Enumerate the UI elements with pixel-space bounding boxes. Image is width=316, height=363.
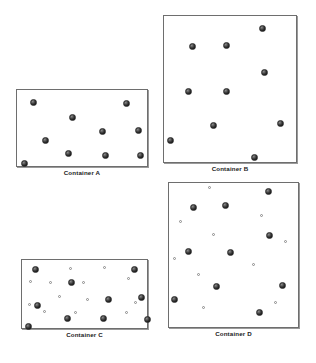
- large-particle: [213, 283, 220, 290]
- large-particle: [189, 43, 196, 50]
- large-particle: [135, 127, 142, 134]
- small-particle: [43, 310, 46, 313]
- container-box-d: [168, 182, 299, 328]
- small-particle: [29, 280, 32, 283]
- small-particle: [82, 281, 85, 284]
- container-box-b: [163, 15, 297, 163]
- large-particle: [30, 99, 37, 106]
- small-particle: [260, 214, 263, 217]
- large-particle: [64, 315, 71, 322]
- large-particle: [123, 100, 130, 107]
- container-box-c: [21, 259, 148, 329]
- large-particle: [223, 88, 230, 95]
- small-particle: [197, 273, 200, 276]
- large-particle: [65, 150, 72, 157]
- small-particle: [212, 233, 215, 236]
- large-particle: [266, 232, 273, 239]
- small-particle: [284, 240, 287, 243]
- container-label-c: Container C: [21, 331, 148, 339]
- large-particle: [277, 120, 284, 127]
- small-particle: [208, 186, 211, 189]
- small-particle: [274, 301, 277, 304]
- small-particle: [69, 267, 72, 270]
- large-particle: [21, 160, 28, 167]
- small-particle: [58, 295, 61, 298]
- large-particle: [105, 296, 112, 303]
- small-particle: [49, 281, 52, 284]
- large-particle: [138, 294, 145, 301]
- large-particle: [68, 279, 75, 286]
- large-particle: [227, 249, 234, 256]
- large-particle: [222, 202, 229, 209]
- container-label-b: Container B: [163, 165, 297, 173]
- large-particle: [261, 69, 268, 76]
- container-label-a: Container A: [16, 169, 148, 177]
- small-particle: [202, 306, 205, 309]
- small-particle: [127, 277, 130, 280]
- large-particle: [259, 25, 266, 32]
- small-particle: [103, 266, 106, 269]
- large-particle: [223, 42, 230, 49]
- small-particle: [252, 263, 255, 266]
- small-particle: [173, 257, 176, 260]
- large-particle: [279, 282, 286, 289]
- large-particle: [25, 323, 32, 330]
- large-particle: [251, 154, 258, 161]
- small-particle: [74, 311, 77, 314]
- small-particle: [134, 301, 137, 304]
- large-particle: [137, 152, 144, 159]
- small-particle: [28, 303, 31, 306]
- figure-canvas: Container A Container B Container C Cont…: [0, 0, 316, 363]
- large-particle: [100, 315, 107, 322]
- large-particle: [171, 296, 178, 303]
- large-particle: [69, 114, 76, 121]
- small-particle: [125, 311, 128, 314]
- small-particle: [86, 298, 89, 301]
- large-particle: [185, 248, 192, 255]
- large-particle: [210, 122, 217, 129]
- large-particle: [102, 152, 109, 159]
- large-particle: [190, 204, 197, 211]
- large-particle: [131, 266, 138, 273]
- large-particle: [185, 88, 192, 95]
- large-particle: [256, 309, 263, 316]
- large-particle: [42, 137, 49, 144]
- large-particle: [99, 128, 106, 135]
- large-particle: [167, 137, 174, 144]
- small-particle: [179, 220, 182, 223]
- large-particle: [144, 316, 151, 323]
- large-particle: [34, 302, 41, 309]
- large-particle: [265, 188, 272, 195]
- container-label-d: Container D: [168, 330, 299, 338]
- large-particle: [32, 266, 39, 273]
